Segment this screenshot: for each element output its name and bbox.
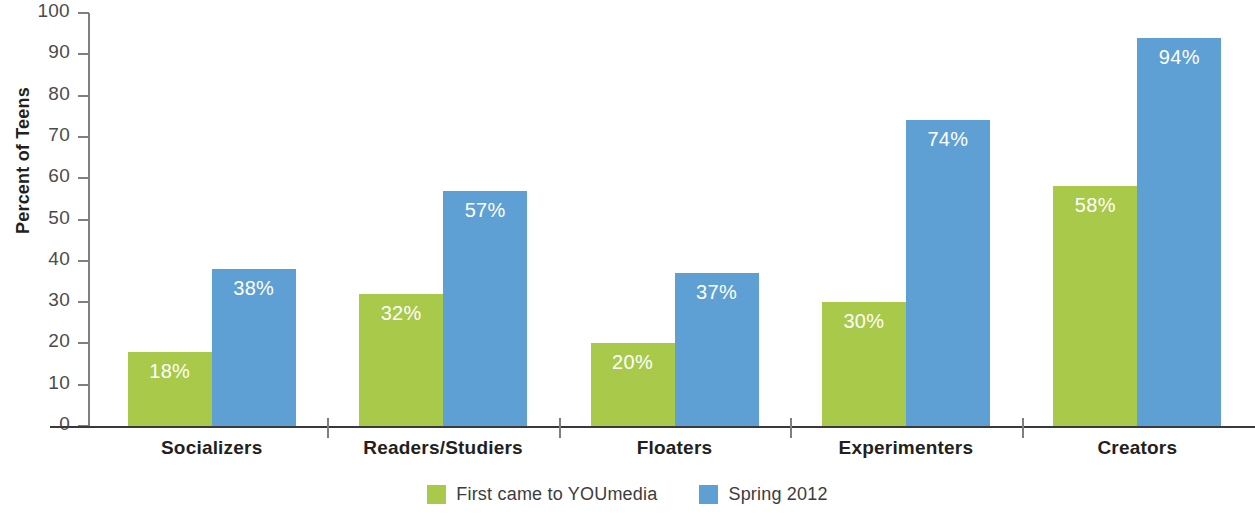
y-axis-tick: [78, 342, 89, 344]
bar[interactable]: 37%: [675, 273, 759, 426]
x-axis-separator: [1022, 418, 1024, 438]
legend-label: First came to YOUmedia: [456, 484, 657, 505]
x-axis-category-label: Socializers: [96, 437, 327, 459]
bar[interactable]: 57%: [443, 191, 527, 426]
y-axis-tick: [78, 219, 89, 221]
x-axis-category-label: Readers/Studiers: [327, 437, 558, 459]
bar-value-label: 20%: [591, 351, 675, 374]
bar-value-label: 94%: [1137, 46, 1221, 69]
legend-swatch-green: [427, 485, 446, 504]
legend-label: Spring 2012: [728, 484, 827, 505]
x-axis-line: [50, 426, 1255, 428]
y-axis-tick: [78, 260, 89, 262]
x-axis-separator: [327, 418, 329, 438]
y-axis-tick: [78, 95, 89, 97]
y-axis-tick-label: 20: [0, 330, 70, 352]
x-axis-category-label: Experimenters: [790, 437, 1021, 459]
y-axis-tick-label: 10: [0, 372, 70, 394]
y-axis-tick-label: 50: [0, 207, 70, 229]
y-axis-tick: [78, 384, 89, 386]
legend-item[interactable]: First came to YOUmedia: [427, 484, 657, 505]
bar-value-label: 37%: [675, 281, 759, 304]
y-axis-tick-label: 80: [0, 83, 70, 105]
y-axis-tick-label: 40: [0, 248, 70, 270]
bar[interactable]: 94%: [1137, 38, 1221, 426]
y-axis-tick-label: 100: [0, 0, 70, 22]
bar-value-label: 57%: [443, 199, 527, 222]
y-axis-tick: [78, 301, 89, 303]
bar-value-label: 38%: [212, 277, 296, 300]
bar[interactable]: 30%: [822, 302, 906, 426]
bar-value-label: 30%: [822, 310, 906, 333]
bar-chart: Percent of Teens 1009080706050403020100 …: [0, 0, 1255, 515]
x-axis-category-label: Floaters: [559, 437, 790, 459]
chart-legend: First came to YOUmediaSpring 2012: [0, 484, 1255, 505]
y-axis-tick-label: 60: [0, 165, 70, 187]
bar[interactable]: 58%: [1053, 186, 1137, 426]
y-axis-tick-label: 0: [0, 413, 70, 435]
y-axis-tick-label: 90: [0, 41, 70, 63]
bar-value-label: 58%: [1053, 194, 1137, 217]
bar-value-label: 18%: [128, 360, 212, 383]
y-axis-tick: [78, 136, 89, 138]
bar[interactable]: 74%: [906, 120, 990, 426]
x-axis-category-label: Creators: [1022, 437, 1253, 459]
bar[interactable]: 18%: [128, 352, 212, 426]
bar[interactable]: 20%: [591, 343, 675, 426]
x-axis-separator: [790, 418, 792, 438]
bar[interactable]: 32%: [359, 294, 443, 426]
legend-swatch-blue: [699, 485, 718, 504]
x-axis-separator: [559, 418, 561, 438]
legend-item[interactable]: Spring 2012: [699, 484, 827, 505]
y-axis-tick: [78, 53, 89, 55]
bar[interactable]: 38%: [212, 269, 296, 426]
y-axis-tick: [78, 12, 89, 14]
y-axis-tick-label: 70: [0, 124, 70, 146]
bar-value-label: 32%: [359, 302, 443, 325]
y-axis-tick: [78, 177, 89, 179]
bar-value-label: 74%: [906, 128, 990, 151]
y-axis-tick-label: 30: [0, 289, 70, 311]
